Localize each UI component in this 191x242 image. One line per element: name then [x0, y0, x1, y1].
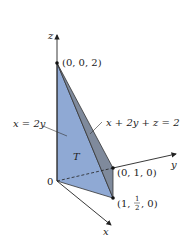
point-x-label: (1, 1 2 , 0)	[117, 195, 158, 212]
vertex-y	[111, 166, 115, 170]
vertex-top	[55, 61, 59, 65]
svg-text:1: 1	[135, 195, 139, 203]
z-axis-label: z	[47, 30, 54, 41]
y-axis	[113, 154, 176, 168]
x-axis-label: x	[103, 226, 109, 237]
point-top-label: (0, 0, 2)	[62, 57, 102, 68]
origin-label: 0	[47, 176, 53, 187]
svg-text:2: 2	[135, 204, 139, 212]
vertex-x	[111, 196, 115, 200]
svg-text:, 0): , 0)	[141, 198, 158, 209]
svg-text:(1,: (1,	[117, 198, 130, 209]
plane-right-label: x + 2y + z = 2	[106, 117, 180, 128]
y-axis-label: y	[170, 159, 177, 170]
plane-left-label: x = 2y	[13, 118, 46, 129]
point-y-label: (0, 1, 0)	[117, 167, 157, 178]
tetrahedron-diagram: z y x 0 (0, 0, 2) (0, 1, 0) (1, 1 2 , 0)…	[0, 0, 191, 242]
